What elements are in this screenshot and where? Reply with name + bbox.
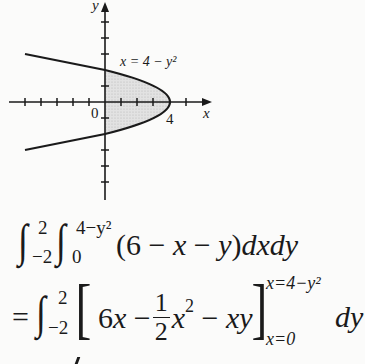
integrand: (6 − x − y)dxdy — [116, 230, 298, 260]
vertex-label: 4 — [166, 111, 174, 127]
cut-off-glyph — [75, 357, 81, 364]
integral-sign: ∫ — [36, 290, 46, 336]
antiderivative: 6x − 1 2 x2 − xy — [98, 290, 253, 345]
equation-line-1: ∫ 2 −2 ∫ 4−y² 0 (6 − x − y)dxdy — [18, 218, 318, 268]
x-axis-label: x — [202, 105, 210, 121]
region-graph: y x 0 4 x = 4 − y² — [0, 0, 365, 215]
right-bracket: ] — [251, 274, 267, 342]
left-bracket: [ — [75, 274, 91, 342]
origin-label: 0 — [91, 105, 99, 121]
y-axis-arrow-icon — [101, 2, 109, 12]
equation-line-2: = ∫ 2 −2 [ 6x − 1 2 x2 − xy ] x=4−y² x=0… — [10, 280, 365, 350]
outer-upper-limit: 2 — [38, 218, 48, 237]
inner-upper-limit: 4−y² — [76, 218, 111, 237]
differential-dy: dy — [335, 302, 363, 332]
integral-sign-outer: ∫ — [18, 218, 28, 264]
curve-label: x = 4 − y² — [119, 54, 177, 69]
y-axis-label: y — [90, 0, 99, 13]
inner-lower-limit: 0 — [72, 247, 82, 266]
upper-limit: 2 — [58, 288, 68, 307]
outer-lower-limit: −2 — [32, 247, 52, 266]
fraction-one-half: 1 2 — [153, 290, 170, 345]
eval-upper-limit: x=4−y² — [266, 274, 321, 292]
integral-sign-inner: ∫ — [56, 218, 66, 264]
equals-sign: = — [12, 302, 29, 332]
eval-lower-limit: x=0 — [266, 330, 295, 348]
lower-limit: −2 — [48, 318, 68, 337]
